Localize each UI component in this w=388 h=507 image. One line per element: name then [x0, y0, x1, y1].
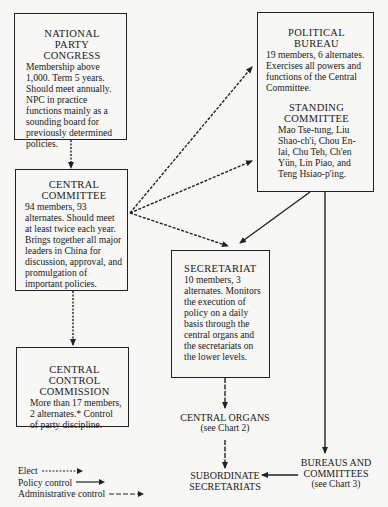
cc-title-line2: COMMITTEE	[25, 190, 123, 201]
solid-arrow-icon	[76, 478, 106, 486]
standing-committee-members: Mao Tse-tung, Liu Shao-ch'i, Chou En-lai…	[266, 124, 367, 179]
politburo-description: 19 members, 6 alternates. Exercises all …	[266, 49, 367, 93]
standing-committee-title-line1: STANDING	[266, 102, 367, 113]
node-subordinate-secretariats: SUBORDINATE SECRETARIATS	[186, 470, 264, 492]
arrow-cc-to-standing-committee	[130, 161, 252, 213]
subordinate-title-line1: SUBORDINATE	[186, 470, 264, 481]
secretariat-title: SECRETARIAT	[184, 263, 265, 274]
node-secretariat: SECRETARIAT 10 members, 3 alternates. Mo…	[171, 250, 270, 378]
legend-policy: Policy control	[18, 477, 145, 489]
cc-description: 94 members, 93 alternates. Should meet a…	[25, 201, 123, 289]
legend: Elect Policy control Administrative cont…	[18, 465, 145, 500]
arrow-cc-to-secretariat	[130, 213, 228, 246]
legend-elect: Elect	[18, 465, 145, 477]
node-bureaus-and-committees: BUREAUS AND COMMITTEES (see Chart 3)	[296, 457, 376, 490]
npc-title-line2: CONGRESS	[26, 50, 118, 61]
standing-committee-title-line2: COMMITTEE	[266, 113, 367, 124]
subordinate-title-line2: SECRETARIATS	[186, 481, 264, 492]
legend-elect-label: Elect	[18, 465, 38, 477]
dotted-arrow-icon	[42, 467, 84, 475]
legend-admin-label: Administrative control	[18, 488, 105, 500]
ccc-title-line1: CENTRAL CONTROL	[27, 364, 122, 386]
dashed-arrow-icon	[109, 490, 145, 498]
cc-title-line1: CENTRAL	[25, 179, 123, 190]
central-organs-title: CENTRAL ORGANS	[180, 412, 269, 423]
npc-title-line1: NATIONAL PARTY	[26, 28, 118, 50]
node-central-committee: CENTRAL COMMITTEE 94 members, 93 alterna…	[15, 169, 128, 291]
bureaus-title-line2: COMMITTEES	[296, 468, 376, 479]
ccc-title-line2: COMMISSION	[27, 386, 122, 397]
arrow-politburo-to-secretariat	[240, 192, 310, 243]
npc-description: Membership above 1,000. Term 5 years. Sh…	[26, 61, 118, 149]
secretariat-description: 10 members, 3 alternates. Monitors the e…	[184, 274, 265, 362]
central-organs-ref: (see Chart 2)	[170, 423, 280, 434]
node-national-party-congress: NATIONAL PARTY CONGRESS Membership above…	[14, 13, 127, 140]
bureaus-title-line1: BUREAUS AND	[296, 457, 376, 468]
node-political-bureau: POLITICAL BUREAU 19 members, 6 alternate…	[257, 12, 374, 192]
legend-policy-label: Policy control	[18, 477, 72, 489]
legend-admin: Administrative control	[18, 488, 145, 500]
node-central-organs: CENTRAL ORGANS (see Chart 2)	[170, 412, 280, 434]
politburo-title: POLITICAL BUREAU	[266, 27, 367, 49]
arrow-cc-to-politburo	[130, 67, 252, 213]
node-central-control-commission: CENTRAL CONTROL COMMISSION More than 17 …	[16, 347, 129, 427]
ccc-description: More than 17 members, 2 alternates.* Con…	[27, 397, 122, 430]
bureaus-ref: (see Chart 3)	[296, 479, 376, 490]
